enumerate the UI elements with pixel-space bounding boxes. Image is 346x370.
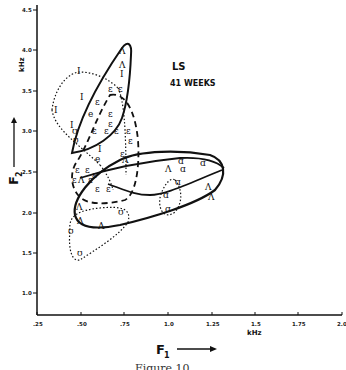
y-tick-label: 4.5: [22, 7, 32, 13]
svg-text:Λ: Λ: [121, 155, 129, 165]
arrow-head-icon: [11, 117, 17, 123]
svg-text:ε: ε: [75, 165, 80, 175]
svg-text:Ⅰ: Ⅰ: [80, 92, 84, 102]
x-tick-label: 1.75: [292, 321, 306, 327]
svg-text:ʊ: ʊ: [73, 135, 79, 145]
svg-text:ε: ε: [108, 109, 113, 119]
x-tick-label: 1.5: [251, 321, 261, 327]
chart-title: LS: [172, 61, 186, 72]
svg-text:ε: ε: [95, 184, 100, 194]
svg-text:ε: ε: [106, 184, 111, 194]
x-tick-label: .75: [120, 321, 130, 327]
y-unit-label: kHz: [18, 57, 26, 72]
y-tick-label: 2.0: [22, 210, 32, 216]
svg-text:ε: ε: [85, 165, 90, 175]
arrow-head-icon: [210, 346, 217, 352]
region-i-dotted-vertical: [100, 88, 126, 190]
svg-text:ɑ: ɑ: [163, 190, 169, 200]
svg-text:Λ: Λ: [77, 175, 85, 185]
x-tick-label: .50: [77, 321, 87, 327]
axes: [37, 5, 342, 315]
figure-caption: Figure 10: [135, 362, 190, 370]
formant-chart: 4.5 4.0 3.5 3.0 2.5 2.0 1.5 1.0 .25 .50 …: [0, 0, 346, 370]
svg-text:Λ: Λ: [207, 192, 215, 202]
y-tick-label: 4.0: [22, 47, 32, 53]
y-axis-subscript: 2: [15, 171, 24, 177]
svg-text:ɑ: ɑ: [180, 164, 186, 174]
svg-text:e: e: [88, 109, 93, 119]
svg-text:Λ: Λ: [164, 164, 172, 174]
svg-text:ε: ε: [104, 126, 109, 136]
y-tick-label: 3.0: [22, 128, 32, 134]
y-tick-label: 1.0: [22, 290, 32, 296]
x-unit-label: kHz: [247, 329, 262, 337]
x-axis-subscript: 1: [164, 351, 170, 360]
regions: [52, 44, 224, 260]
svg-text:ε: ε: [126, 126, 131, 136]
svg-text:ε: ε: [118, 84, 123, 94]
svg-text:Λ: Λ: [118, 46, 126, 56]
svg-text:ε: ε: [72, 175, 77, 185]
svg-text:ε: ε: [128, 136, 133, 146]
svg-text:ε: ε: [114, 126, 119, 136]
x-axis-title: F 1: [156, 342, 217, 360]
x-tick-label: .25: [33, 321, 43, 327]
svg-text:ε: ε: [108, 84, 113, 94]
y-tick-label: 1.5: [22, 250, 32, 256]
svg-text:Ⅰ: Ⅰ: [54, 105, 58, 115]
x-tick-label: 2.0: [337, 321, 346, 327]
chart-subtitle: 41 WEEKS: [170, 79, 216, 88]
svg-text:Ⅰ: Ⅰ: [77, 66, 81, 76]
svg-text:ε: ε: [95, 97, 100, 107]
y-tick-label: 3.5: [22, 88, 32, 94]
x-tick-label: 1.0: [164, 321, 174, 327]
x-tick-labels: .25 .50 .75 1.0 1.25 1.5 1.75 2.0: [33, 321, 346, 327]
x-tick-label: 1.25: [206, 321, 220, 327]
svg-text:ɑ: ɑ: [175, 177, 181, 187]
svg-text:Λ: Λ: [204, 182, 212, 192]
svg-text:ɑ: ɑ: [200, 158, 206, 168]
svg-text:Λ: Λ: [76, 216, 84, 226]
svg-text:ʊ: ʊ: [68, 226, 74, 236]
svg-text:Ⅰ: Ⅰ: [98, 144, 102, 154]
svg-text:Ⅰ: Ⅰ: [120, 69, 124, 79]
svg-text:Λ: Λ: [97, 221, 105, 231]
svg-text:ε: ε: [92, 126, 97, 136]
svg-text:ε: ε: [92, 170, 97, 180]
svg-text:Λ: Λ: [75, 202, 83, 212]
svg-text:ε: ε: [88, 175, 93, 185]
y-tick-labels: 4.5 4.0 3.5 3.0 2.5 2.0 1.5 1.0: [22, 7, 32, 296]
svg-text:e: e: [95, 154, 100, 164]
svg-text:ʊ: ʊ: [118, 207, 124, 217]
svg-text:ʊ: ʊ: [77, 248, 83, 258]
svg-text:ε: ε: [108, 119, 113, 129]
svg-text:ɑ: ɑ: [165, 204, 171, 214]
